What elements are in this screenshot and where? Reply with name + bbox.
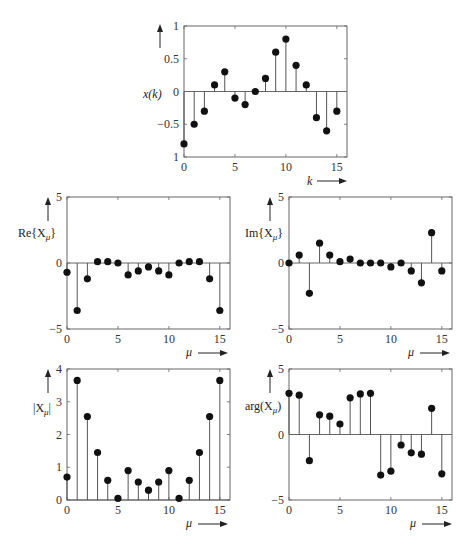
ylabel-mag: |Xμ|: [33, 401, 51, 417]
y-tick-label: 0: [173, 85, 179, 99]
stem-marker: [408, 267, 415, 274]
svg-text:x(k): x(k): [142, 87, 162, 101]
arrowhead-right-icon: [339, 178, 347, 184]
stem-marker: [357, 259, 364, 266]
stem-marker: [74, 307, 81, 314]
stem-marker: [408, 449, 415, 456]
svg-text:Re{Xμ}: Re{Xμ}: [18, 226, 56, 242]
x-tick-label: 15: [436, 332, 448, 346]
stem-plot-figure: 0510151−0.500.51 051015−505 051015−505 0…: [0, 0, 475, 547]
svg-text:μ: μ: [185, 345, 192, 359]
arrowhead-up-icon: [45, 369, 51, 377]
panel-magnitude: 05101501234: [45, 362, 230, 527]
y-tick-label: 0.5: [164, 52, 179, 66]
stem-marker: [377, 259, 384, 266]
stem-marker: [211, 81, 218, 88]
stem-marker: [221, 68, 228, 75]
x-tick-label: 10: [385, 332, 397, 346]
stem-marker: [377, 472, 384, 479]
x-tick-label: 15: [214, 332, 226, 346]
ylabel-re: Re{Xμ}: [18, 226, 56, 242]
stem-marker: [296, 251, 303, 258]
stem-marker: [125, 467, 132, 474]
y-tick-label: 3: [56, 395, 62, 409]
stem-marker: [272, 49, 279, 56]
stem-marker: [428, 405, 435, 412]
y-tick-label: 4: [56, 362, 62, 376]
panel-time-signal: 0510151−0.500.51: [157, 19, 347, 184]
stem-marker: [74, 377, 81, 384]
y-tick-label: −0.5: [157, 117, 179, 131]
x-tick-label: 5: [115, 503, 121, 517]
svg-text:μ: μ: [185, 516, 192, 530]
y-tick-label: −5: [271, 493, 284, 507]
arrowhead-right-icon: [220, 521, 228, 527]
x-tick-label: 15: [436, 503, 448, 517]
stem-marker: [165, 271, 172, 278]
arrowhead-right-icon: [220, 350, 228, 356]
stem-marker: [155, 267, 162, 274]
stem-marker: [135, 478, 142, 485]
stem-marker: [186, 258, 193, 265]
stem-marker: [145, 487, 152, 494]
stem-marker: [428, 229, 435, 236]
x-tick-label: 10: [385, 503, 397, 517]
stem-marker: [397, 441, 404, 448]
stem-marker: [180, 140, 187, 147]
stem-marker: [397, 259, 404, 266]
x-tick-label: 15: [331, 160, 343, 174]
ylabel-arg: arg(Xμ): [245, 399, 281, 415]
axes-frame: [67, 369, 230, 500]
svg-text:|Xμ|: |Xμ|: [33, 401, 51, 417]
x-tick-label: 15: [214, 503, 226, 517]
x-tick-label: 5: [337, 332, 343, 346]
stem-marker: [104, 477, 111, 484]
y-tick-label: 1: [173, 19, 179, 33]
xlabel-arg: μ: [409, 516, 416, 530]
panel-imaginary-part: 051015−505: [267, 190, 452, 356]
stem-marker: [186, 477, 193, 484]
stem-marker: [94, 449, 101, 456]
stem-marker: [114, 259, 121, 266]
stem-marker: [201, 108, 208, 115]
stem-marker: [347, 394, 354, 401]
stem-marker: [196, 258, 203, 265]
stem-marker: [63, 269, 70, 276]
y-tick-label: 5: [278, 362, 284, 376]
stem-marker: [418, 279, 425, 286]
y-tick-label: −5: [271, 322, 284, 336]
stem-marker: [216, 307, 223, 314]
y-tick-label: 0: [56, 493, 62, 507]
stem-marker: [418, 451, 425, 458]
stem-marker: [104, 258, 111, 265]
stem-marker: [367, 390, 374, 397]
stem-marker: [175, 495, 182, 502]
stem-marker: [165, 467, 172, 474]
x-tick-label: 0: [64, 503, 70, 517]
arrowhead-right-icon: [442, 350, 450, 356]
xlabel-mag: μ: [185, 516, 192, 530]
stem-marker: [387, 468, 394, 475]
stem-marker: [303, 81, 310, 88]
svg-text:arg(Xμ): arg(Xμ): [245, 399, 281, 415]
x-tick-label: 5: [115, 332, 121, 346]
stem-marker: [155, 478, 162, 485]
stem-marker: [206, 413, 213, 420]
y-tick-label: 1: [56, 460, 62, 474]
x-tick-label: 5: [232, 160, 238, 174]
x-tick-label: 0: [64, 332, 70, 346]
stem-marker: [336, 258, 343, 265]
x-tick-label: 0: [286, 503, 292, 517]
ylabel-xk: x(k): [142, 87, 162, 101]
x-tick-label: 0: [181, 160, 187, 174]
x-tick-label: 10: [280, 160, 292, 174]
stem-marker: [63, 473, 70, 480]
stem-marker: [306, 457, 313, 464]
stem-marker: [336, 420, 343, 427]
svg-text:μ: μ: [407, 345, 414, 359]
svg-text:k: k: [307, 174, 313, 188]
stem-marker: [206, 275, 213, 282]
y-tick-label: −5: [49, 322, 62, 336]
y-tick-label: 0: [278, 428, 284, 442]
stem-marker: [296, 392, 303, 399]
